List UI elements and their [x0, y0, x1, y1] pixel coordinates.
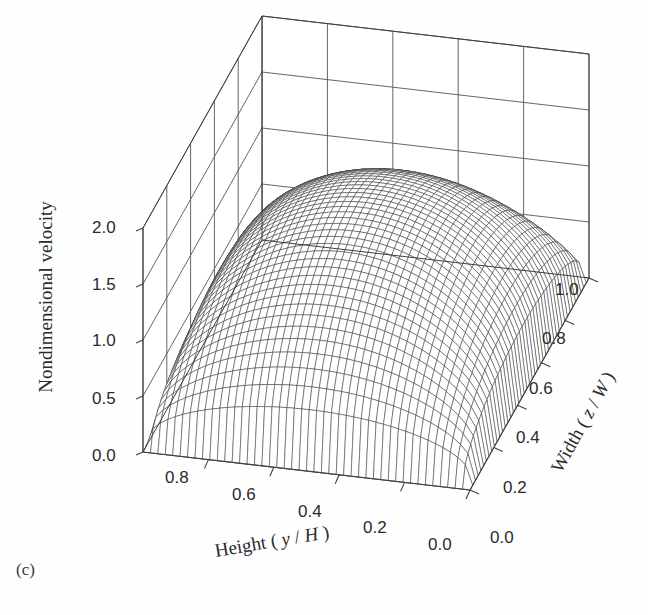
panel-label: (c) [16, 560, 35, 580]
y-tick-label: 0.4 [516, 428, 540, 448]
z-axis-title: Nondimensional velocity [35, 187, 57, 407]
z-tick-label: 1.0 [92, 331, 116, 351]
x-tick-label: 0.2 [363, 518, 387, 538]
x-axis-var-numerator: y [280, 528, 292, 550]
x-tick-label: 0.0 [428, 535, 452, 555]
y-tick-label: 1.0 [555, 280, 579, 300]
figure-container: 2.01.51.00.50.00.80.60.40.20.00.00.20.40… [0, 0, 648, 615]
z-tick-label: 0.5 [92, 389, 116, 409]
x-tick-label: 0.4 [298, 502, 322, 522]
z-tick-label: 0.0 [92, 446, 116, 466]
x-axis-paren-open: ( [269, 530, 279, 552]
y-tick-label: 0.0 [490, 528, 514, 548]
x-axis-slash: / [293, 526, 302, 548]
z-tick-label: 2.0 [92, 218, 116, 238]
z-tick-label: 1.5 [92, 275, 116, 295]
y-tick-label: 0.8 [542, 329, 566, 349]
x-tick-label: 0.8 [165, 468, 189, 488]
x-axis-var-denominator: H [303, 523, 320, 546]
x-tick-label: 0.6 [232, 485, 256, 505]
y-tick-label: 0.6 [529, 379, 553, 399]
y-tick-label: 0.2 [503, 478, 527, 498]
